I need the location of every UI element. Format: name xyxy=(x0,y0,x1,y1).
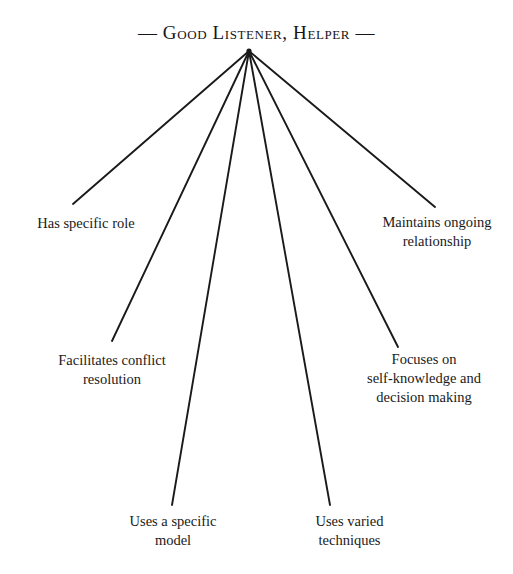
branch-line-facilitates-conflict-resolution xyxy=(112,51,249,341)
branch-label-uses-varied-techniques: Uses varied techniques xyxy=(282,512,417,550)
branch-label-facilitates-conflict-resolution: Facilitates conflict resolution xyxy=(32,351,192,389)
fan-lines-group xyxy=(0,0,513,574)
branch-line-uses-a-specific-model xyxy=(172,51,249,505)
branch-line-uses-varied-techniques xyxy=(249,51,330,505)
branch-label-uses-a-specific-model: Uses a specific model xyxy=(98,512,248,550)
branch-label-focuses-on-self-knowledge: Focuses on self-knowledge and decision m… xyxy=(348,350,500,407)
apex-node xyxy=(246,48,251,53)
branch-line-has-specific-role xyxy=(73,51,249,204)
diagram-canvas: — Good Listener, Helper — Has specific r… xyxy=(0,0,513,574)
branch-label-has-specific-role: Has specific role xyxy=(6,214,166,233)
branch-label-maintains-ongoing-relationship: Maintains ongoing relationship xyxy=(362,213,512,251)
branch-line-maintains-ongoing-relationship xyxy=(249,51,435,207)
branch-line-focuses-on-self-knowledge xyxy=(249,51,398,347)
